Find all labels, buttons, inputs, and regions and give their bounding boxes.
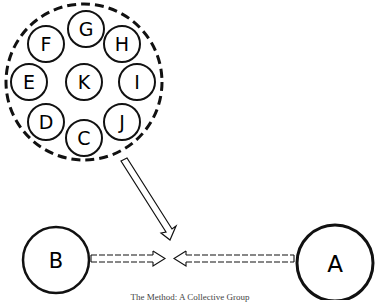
group-member-g: G bbox=[68, 11, 104, 47]
group-arrow-icon bbox=[121, 158, 176, 240]
svg-text:J: J bbox=[118, 111, 125, 133]
svg-text:A: A bbox=[327, 251, 343, 277]
group-member-f: F bbox=[28, 26, 64, 62]
group-member-c: C bbox=[66, 120, 102, 156]
svg-text:F: F bbox=[41, 33, 52, 55]
figure-caption: The Method: A Collective Group bbox=[0, 292, 380, 302]
group-member-i: I bbox=[119, 64, 155, 100]
svg-text:B: B bbox=[49, 249, 63, 273]
node-b: B bbox=[23, 227, 89, 293]
svg-text:K: K bbox=[78, 71, 91, 93]
svg-text:H: H bbox=[115, 33, 129, 55]
group-member-e: E bbox=[11, 64, 47, 100]
svg-text:I: I bbox=[134, 71, 140, 93]
a-arrow-icon bbox=[174, 251, 294, 266]
group-member-h: H bbox=[104, 26, 140, 62]
svg-text:C: C bbox=[77, 127, 90, 149]
group-member-d: D bbox=[28, 104, 64, 140]
svg-text:E: E bbox=[23, 71, 35, 93]
b-arrow-icon bbox=[91, 251, 165, 266]
group-member-k: K bbox=[66, 64, 102, 100]
group-member-j: J bbox=[104, 104, 140, 140]
svg-text:G: G bbox=[79, 18, 94, 40]
svg-text:D: D bbox=[39, 111, 54, 133]
node-a: A bbox=[297, 225, 373, 300]
